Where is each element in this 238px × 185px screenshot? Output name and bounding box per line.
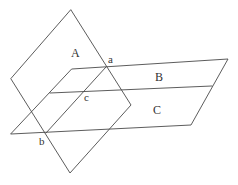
intersecting-planes-diagram: A B C a c b [0, 0, 238, 185]
plane-b-label: B [155, 70, 163, 84]
plane-bc-divider-line [50, 86, 212, 93]
point-a-label: a [108, 53, 113, 65]
point-b-label: b [39, 135, 45, 147]
plane-a-outline [11, 10, 131, 173]
plane-a-label: A [71, 46, 80, 60]
intersection-line-ab [46, 67, 106, 133]
point-c-label: c [84, 91, 89, 103]
plane-c-label: C [153, 103, 161, 117]
plane-bc-outline [11, 59, 228, 134]
